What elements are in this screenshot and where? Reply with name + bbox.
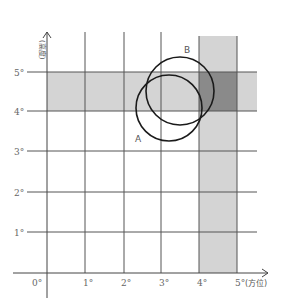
- x-tick-0: 0°: [32, 278, 42, 288]
- x-tick-2: 2°: [121, 278, 131, 288]
- x-tick-1: 1°: [83, 278, 93, 288]
- x-axis-label: (方位): [245, 278, 267, 288]
- circle-b-label: B: [184, 45, 190, 55]
- x-tick-3: 3°: [159, 278, 169, 288]
- y-axis-label: (高度): [38, 40, 47, 60]
- y-tick-5: 5°: [14, 68, 24, 78]
- y-tick-3: 3°: [14, 147, 24, 157]
- x-tick-5: 5°: [235, 278, 245, 288]
- overlap-region: [199, 72, 237, 111]
- position-diagram: A B 5° 4° 3° 2° 1° 0° 1° 2° 3° 4° 5° (方位…: [0, 0, 284, 306]
- x-tick-4: 4°: [197, 278, 207, 288]
- y-tick-2: 2°: [14, 188, 24, 198]
- y-tick-1: 1°: [14, 228, 24, 238]
- y-tick-4: 4°: [14, 107, 24, 117]
- circle-a-label: A: [135, 134, 142, 144]
